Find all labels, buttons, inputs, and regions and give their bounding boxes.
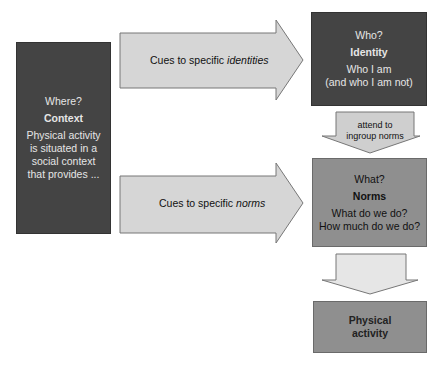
context-box: Where? Context Physical activity is situ… <box>16 42 111 234</box>
norms-line: What do we do? <box>332 207 408 220</box>
norms-line: How much do we do? <box>319 220 420 233</box>
context-line: Physical activity <box>26 129 100 142</box>
activity-arrow <box>322 254 418 294</box>
norms-box: What? Norms What do we do? How much do w… <box>312 158 427 247</box>
identity-question: Who? <box>355 29 382 41</box>
activity-box: Physical activity <box>313 301 427 353</box>
context-title: Context <box>44 112 83 124</box>
norms-question: What? <box>354 173 384 185</box>
context-line: is situated in a <box>30 142 97 155</box>
activity-title-line: activity <box>352 327 388 340</box>
context-line: that provides ... <box>28 168 100 181</box>
attend-label: attend to ingroup norms <box>336 120 414 142</box>
context-line: social context <box>32 155 96 168</box>
norms-title: Norms <box>353 190 386 202</box>
activity-title-line: Physical <box>349 314 392 327</box>
identity-title: Identity <box>350 46 387 58</box>
identity-box: Who? Identity Who I am (and who I am not… <box>311 12 427 106</box>
identity-line: (and who I am not) <box>325 76 413 89</box>
norms-cue-label: Cues to specific norms <box>159 197 265 209</box>
context-question: Where? <box>45 95 82 107</box>
identity-line: Who I am <box>347 63 392 76</box>
identity-cue-label: Cues to specific identities <box>150 54 269 66</box>
